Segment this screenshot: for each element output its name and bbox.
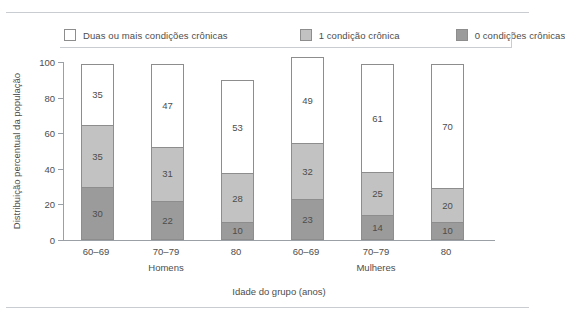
stacked-bar-homens-60-69[interactable]: 35 35 30 (81, 64, 114, 240)
bar-series-group: 35 35 30 47 31 22 53 28 10 49 32 23 61 (64, 62, 491, 240)
group-label-mulheres: Mulheres (331, 262, 421, 273)
segment-one-condition[interactable]: 35 (81, 125, 114, 187)
legend-label-one-condition: 1 condição crônica (319, 30, 400, 41)
segment-zero-conditions[interactable]: 23 (291, 199, 324, 240)
legend-item-two-or-more: Duas ou mais condições crônicas (64, 29, 228, 41)
y-tick-label-20: 20 (44, 199, 55, 210)
segment-zero-conditions[interactable]: 10 (221, 222, 254, 240)
segment-one-condition[interactable]: 28 (221, 173, 254, 223)
y-tick-label-0: 0 (50, 235, 55, 246)
segment-value-label: 22 (162, 216, 173, 226)
y-axis-title: Distribuição percentual da população (10, 62, 24, 240)
x-tick-label-homens-70-79: 70–79 (136, 246, 196, 257)
segment-two-or-more[interactable]: 47 (151, 64, 184, 148)
segment-value-label: 14 (372, 223, 383, 233)
segment-two-or-more[interactable]: 61 (361, 64, 394, 173)
legend-label-two-or-more: Duas ou mais condições crônicas (83, 30, 228, 41)
x-axis-group-labels: Homens Mulheres (63, 262, 495, 276)
segment-value-label: 28 (232, 194, 243, 204)
legend-right-tick (511, 32, 512, 48)
legend-item-one-condition: 1 condição crônica (300, 29, 400, 41)
x-tick-label-mulheres-60-69: 60–69 (276, 246, 336, 257)
segment-two-or-more[interactable]: 70 (431, 64, 464, 189)
stacked-bar-mulheres-70-79[interactable]: 61 25 14 (361, 64, 394, 240)
segment-value-label: 20 (442, 201, 453, 211)
x-axis-line (63, 240, 495, 241)
chart-legend: Duas ou mais condições crônicas 1 condiç… (60, 24, 512, 46)
segment-value-label: 53 (232, 123, 243, 133)
segment-value-label: 49 (302, 96, 313, 106)
segment-value-label: 32 (302, 167, 313, 177)
x-tick-label-homens-80: 80 (206, 246, 266, 257)
x-tick-label-homens-60-69: 60–69 (66, 246, 126, 257)
segment-value-label: 31 (162, 169, 173, 179)
y-tick-label-60: 60 (44, 128, 55, 139)
group-label-homens: Homens (121, 262, 211, 273)
segment-value-label: 30 (92, 209, 103, 219)
segment-value-label: 10 (442, 226, 453, 236)
legend-swatch-icon-white (64, 29, 76, 41)
legend-swatch-icon-dark-gray (456, 29, 468, 41)
segment-one-condition[interactable]: 25 (361, 172, 394, 217)
segment-value-label: 47 (162, 101, 173, 111)
segment-value-label: 35 (92, 90, 103, 100)
y-tick-label-100: 100 (39, 57, 55, 68)
x-tick-label-mulheres-70-79: 70–79 (346, 246, 406, 257)
segment-zero-conditions[interactable]: 14 (361, 215, 394, 240)
y-tick-label-80: 80 (44, 92, 55, 103)
legend-swatch-icon-mid-gray (300, 29, 312, 41)
segment-value-label: 10 (232, 226, 243, 236)
segment-value-label: 23 (302, 215, 313, 225)
segment-one-condition[interactable]: 32 (291, 143, 324, 200)
stacked-bar-mulheres-80[interactable]: 70 20 10 (431, 64, 464, 240)
plot-area: 100 80 60 40 20 0 35 35 30 47 31 22 53 2… (63, 62, 491, 240)
segment-two-or-more[interactable]: 49 (291, 57, 324, 144)
segment-zero-conditions[interactable]: 22 (151, 201, 184, 240)
top-divider (6, 12, 529, 13)
segment-zero-conditions[interactable]: 30 (81, 187, 114, 240)
legend-underline (60, 47, 512, 48)
x-axis-tick-labels: 60–69 70–79 80 60–69 70–79 80 (63, 246, 495, 260)
segment-value-label: 35 (92, 152, 103, 162)
segment-value-label: 25 (372, 189, 383, 199)
y-tick-label-40: 40 (44, 163, 55, 174)
legend-label-zero-conditions: 0 condições crônicas (475, 30, 565, 41)
segment-value-label: 61 (372, 114, 383, 124)
stacked-bar-mulheres-60-69[interactable]: 49 32 23 (291, 57, 324, 240)
x-axis-title: Idade do grupo (anos) (63, 286, 495, 297)
stacked-bar-homens-80[interactable]: 53 28 10 (221, 80, 254, 240)
segment-two-or-more[interactable]: 53 (221, 80, 254, 174)
segment-one-condition[interactable]: 31 (151, 147, 184, 202)
segment-two-or-more[interactable]: 35 (81, 64, 114, 126)
segment-zero-conditions[interactable]: 10 (431, 222, 464, 240)
stacked-bar-homens-70-79[interactable]: 47 31 22 (151, 64, 184, 240)
segment-one-condition[interactable]: 20 (431, 188, 464, 224)
segment-value-label: 70 (442, 122, 453, 132)
x-tick-label-mulheres-80: 80 (416, 246, 476, 257)
bottom-divider (6, 307, 529, 308)
